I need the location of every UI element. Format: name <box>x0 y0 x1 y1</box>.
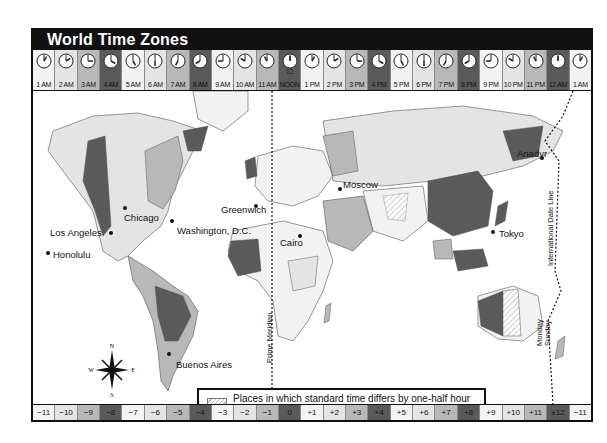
zone-offset-cell: +6 <box>413 405 435 420</box>
clock-icon <box>259 53 275 69</box>
clock-label: 4 PM <box>368 81 389 88</box>
clock-label: 9 AM <box>212 81 233 88</box>
clock-cell: 10 PM <box>503 50 525 90</box>
city-label: Buenos Aires <box>176 359 232 370</box>
compass-n: N <box>110 343 115 349</box>
city-label: Moscow <box>343 179 378 190</box>
zone-offset-cell: −2 <box>234 405 256 420</box>
zone-offset-cell: −9 <box>78 405 100 420</box>
clock-cell: 1 PM <box>301 50 323 90</box>
clock-label: 11 PM <box>525 81 546 88</box>
zone-offset-cell: −3 <box>212 405 234 420</box>
clock-label: 8 AM <box>190 81 211 88</box>
clock-row: 1 AM 2 AM 3 AM 4 AM 5 AM 6 AM <box>33 50 591 91</box>
clock-cell: 9 AM <box>212 50 234 90</box>
clock-icon <box>282 53 298 69</box>
clock-cell: 7 AM <box>167 50 189 90</box>
clock-label: 3 AM <box>78 81 99 88</box>
clock-cell: 4 PM <box>368 50 390 90</box>
zone-offset-cell: +8 <box>458 405 480 420</box>
city-marker-icon <box>46 251 50 255</box>
map-area: Prime Meridian International Date Line M… <box>33 91 591 404</box>
clock-label: 5 AM <box>122 81 143 88</box>
city-label: Los Angeles <box>50 227 102 238</box>
clock-icon <box>304 53 320 69</box>
zone-offset-cell: ±12 <box>547 405 569 420</box>
clock-cell: 8 PM <box>458 50 480 90</box>
clock-cell: 10 AM <box>234 50 256 90</box>
clock-label: 1 AM <box>570 81 591 88</box>
clock-cell: 1 AM <box>570 50 591 90</box>
city-marker-icon <box>298 234 302 238</box>
zone-offset-cell: −11 <box>570 405 591 420</box>
zone-offset-cell: −5 <box>167 405 189 420</box>
compass-icon: N S W E <box>87 342 137 398</box>
clock-label: 7 PM <box>435 81 456 88</box>
zone-offset-cell: +5 <box>391 405 413 420</box>
clock-icon <box>505 53 521 69</box>
city-marker-icon <box>109 231 113 235</box>
zone-offset-cell: +4 <box>368 405 390 420</box>
clock-cell: 3 PM <box>346 50 368 90</box>
noon-number: 12 <box>279 68 300 75</box>
clock-label: 2 AM <box>55 81 76 88</box>
clock-label: 11 AM <box>257 81 278 88</box>
clock-label: 6 AM <box>145 81 166 88</box>
city-marker-icon <box>338 187 342 191</box>
clock-icon <box>483 53 499 69</box>
zone-offset-cell: +3 <box>346 405 368 420</box>
zone-offset-cell: −8 <box>100 405 122 420</box>
clock-label: 9 PM <box>480 81 501 88</box>
zone-offset-cell: +9 <box>480 405 502 420</box>
clock-icon <box>572 53 588 69</box>
city-marker-icon <box>254 204 258 208</box>
clock-label: 4 AM <box>100 81 121 88</box>
clock-label: 10 PM <box>503 81 524 88</box>
zone-offset-cell: +11 <box>525 405 547 420</box>
clock-icon <box>237 53 253 69</box>
clock-icon <box>438 53 454 69</box>
clock-label: NOON <box>279 81 300 88</box>
title-bar: World Time Zones <box>33 30 591 50</box>
zone-offset-bar: −11−10−9−8−7−6−5−4−3−2−10+1+2+3+4+5+6+7+… <box>33 404 591 420</box>
zone-offset-cell: +2 <box>324 405 346 420</box>
clock-cell: 4 AM <box>100 50 122 90</box>
clock-label: 8 PM <box>458 81 479 88</box>
clock-label: 6 PM <box>413 81 434 88</box>
clock-icon <box>371 53 387 69</box>
zone-offset-cell: −6 <box>145 405 167 420</box>
clock-icon <box>192 53 208 69</box>
clock-cell: 12NOON <box>279 50 301 90</box>
city-marker-icon <box>540 156 544 160</box>
clock-icon <box>170 53 186 69</box>
city-label: Chicago <box>124 212 159 223</box>
clock-label: 7 AM <box>167 81 188 88</box>
zone-offset-cell: −4 <box>190 405 212 420</box>
clock-icon <box>80 53 96 69</box>
clock-icon <box>528 53 544 69</box>
zone-offset-cell: −1 <box>257 405 279 420</box>
clock-cell: 6 AM <box>145 50 167 90</box>
city-label: Tokyo <box>499 228 524 239</box>
clock-icon <box>393 53 409 69</box>
clock-cell: 6 PM <box>413 50 435 90</box>
zone-offset-cell: +1 <box>301 405 323 420</box>
clock-icon <box>103 53 119 69</box>
map-title: World Time Zones <box>47 30 188 50</box>
clock-cell: 2 PM <box>324 50 346 90</box>
city-label: Washington, D.C. <box>177 225 251 236</box>
world-time-zones-map: World Time Zones 1 AM 2 AM 3 AM 4 AM 5 A… <box>31 28 593 422</box>
compass-s: S <box>110 392 113 398</box>
clock-cell: 2 AM <box>55 50 77 90</box>
compass-rose: N S W E <box>87 342 137 402</box>
clock-cell: 11 PM <box>525 50 547 90</box>
zone-offset-cell: +10 <box>503 405 525 420</box>
clock-icon <box>215 53 231 69</box>
clock-icon <box>326 53 342 69</box>
zone-offset-cell: 0 <box>279 405 301 420</box>
city-marker-icon <box>491 230 495 234</box>
city-label: Greenwich <box>221 204 266 215</box>
date-line-label: International Date Line <box>546 191 555 266</box>
clock-icon <box>58 53 74 69</box>
clock-icon <box>349 53 365 69</box>
